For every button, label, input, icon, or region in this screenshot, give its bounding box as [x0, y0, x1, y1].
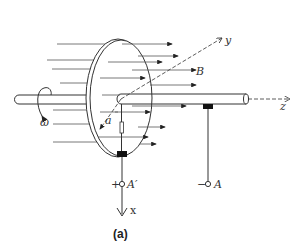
faraday-disk-diagram: ω y z B a — [0, 0, 298, 252]
shaft-brush — [203, 104, 213, 109]
positive-sign: + — [111, 178, 120, 191]
radial-element — [120, 122, 124, 133]
terminal-A-label: A — [213, 178, 222, 191]
y-axis-label: y — [224, 34, 232, 47]
terminal-A-prime-label: A′ — [126, 178, 138, 191]
x-axis-label: x — [130, 204, 137, 217]
field-B-label: B — [195, 65, 204, 78]
z-axis-label: z — [279, 100, 286, 113]
omega-label: ω — [40, 116, 49, 129]
left-shaft — [15, 95, 91, 104]
rim-brush — [117, 151, 127, 157]
rotating-disk — [86, 39, 152, 157]
negative-sign: − — [197, 178, 206, 191]
figure-caption: (a) — [113, 227, 128, 241]
rotation-arrow — [38, 88, 52, 116]
radius-a-label: a — [105, 114, 112, 127]
